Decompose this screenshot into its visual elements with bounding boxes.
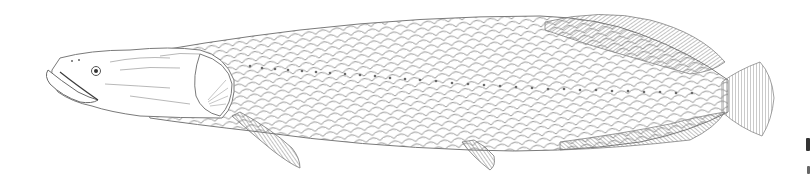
- caption-fragment-glyph: [806, 138, 810, 151]
- fish-illustration: [0, 0, 810, 185]
- fish-pupil: [94, 69, 98, 73]
- caudal-fin: [722, 62, 774, 136]
